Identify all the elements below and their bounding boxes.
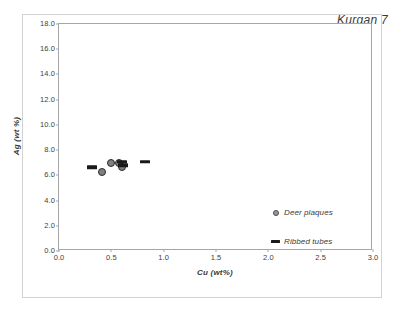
y-tick-label: 18.0 xyxy=(40,20,55,28)
data-point xyxy=(98,168,106,176)
x-tick-label: 0.5 xyxy=(106,254,117,262)
y-tick-mark xyxy=(56,24,59,25)
y-tick-label: 10.0 xyxy=(40,121,55,129)
plot-area: 0.02.04.06.08.010.012.014.016.018.0 0.00… xyxy=(58,23,372,250)
y-tick-mark xyxy=(56,74,59,75)
y-tick-label: 6.0 xyxy=(44,172,55,180)
legend-item-deer-plaques: Deer plaques xyxy=(269,208,333,217)
x-tick-mark xyxy=(163,249,164,252)
y-tick-mark xyxy=(56,99,59,100)
y-axis-label: Ag (wt %) xyxy=(12,117,21,155)
legend-item-ribbed-tubes: Ribbed tubes xyxy=(269,237,332,246)
y-tick-mark xyxy=(56,150,59,151)
x-tick-label: 1.0 xyxy=(158,254,169,262)
y-tick-label: 16.0 xyxy=(40,45,55,53)
y-tick-mark xyxy=(56,175,59,176)
y-tick-label: 2.0 xyxy=(44,222,55,230)
circle-marker-icon xyxy=(269,210,282,216)
y-tick-label: 4.0 xyxy=(44,197,55,205)
x-tick-label: 1.5 xyxy=(211,254,222,262)
x-axis-label: Cu (wt%) xyxy=(58,268,372,277)
x-tick-mark xyxy=(111,249,112,252)
legend-label: Ribbed tubes xyxy=(284,237,332,246)
data-point xyxy=(118,164,128,167)
y-tick-mark xyxy=(56,200,59,201)
x-tick-mark xyxy=(59,249,60,252)
x-tick-mark xyxy=(373,249,374,252)
data-point xyxy=(140,160,150,163)
y-tick-label: 14.0 xyxy=(40,71,55,79)
data-point xyxy=(87,165,97,168)
x-tick-label: 0.0 xyxy=(54,254,65,262)
x-tick-mark xyxy=(216,249,217,252)
figure-canvas: Kurgan 7 Ag (wt %) Cu (wt%) 0.02.04.06.0… xyxy=(0,0,400,315)
y-tick-label: 8.0 xyxy=(44,146,55,154)
y-tick-mark xyxy=(56,225,59,226)
dash-marker-icon xyxy=(269,240,282,243)
y-tick-label: 12.0 xyxy=(40,96,55,104)
chart-legend: Deer plaques Ribbed tubes xyxy=(269,200,372,256)
legend-label: Deer plaques xyxy=(284,208,333,217)
y-tick-mark xyxy=(56,124,59,125)
y-tick-mark xyxy=(56,49,59,50)
